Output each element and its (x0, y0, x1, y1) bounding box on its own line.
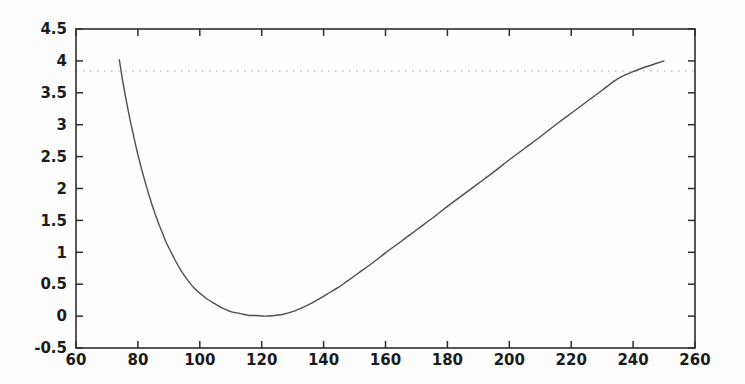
y-tick-label: -0.5 (34, 339, 67, 357)
y-tick-label: 0 (57, 307, 67, 325)
y-tick-label: 3.5 (40, 84, 67, 102)
y-tick-label: 0.5 (40, 275, 67, 293)
profile-likelihood-curve (119, 60, 664, 317)
x-tick-label: 260 (679, 351, 710, 369)
likelihood-profile-figure: 6080100120140160180200220240260-0.500.51… (0, 0, 745, 384)
y-tick-label: 4 (57, 52, 67, 70)
likelihood-profile-chart: 6080100120140160180200220240260-0.500.51… (0, 0, 745, 384)
x-tick-label: 180 (432, 351, 463, 369)
y-tick-label: 4.5 (40, 20, 67, 38)
plot-box (76, 29, 695, 348)
y-tick-label: 1.5 (40, 212, 67, 230)
x-tick-label: 240 (617, 351, 648, 369)
x-tick-label: 80 (127, 351, 148, 369)
y-tick-label: 1 (57, 244, 67, 262)
x-tick-label: 100 (184, 351, 215, 369)
x-tick-label: 200 (494, 351, 525, 369)
x-tick-label: 120 (246, 351, 277, 369)
x-tick-label: 140 (308, 351, 339, 369)
y-tick-label: 2 (57, 180, 67, 198)
y-tick-label: 3 (57, 116, 67, 134)
x-tick-label: 60 (66, 351, 87, 369)
x-tick-label: 160 (370, 351, 401, 369)
x-tick-label: 220 (556, 351, 587, 369)
y-tick-label: 2.5 (40, 148, 67, 166)
